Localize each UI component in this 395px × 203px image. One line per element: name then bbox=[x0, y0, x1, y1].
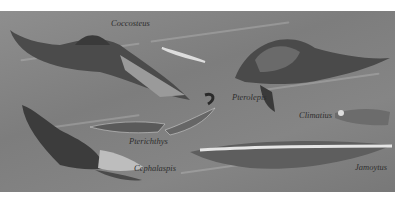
fish-drawings bbox=[0, 11, 395, 192]
label-pterolepis: Pterolepis bbox=[232, 92, 267, 102]
coccosteus-fish bbox=[10, 30, 190, 100]
label-jamoytus: Jamoytus bbox=[355, 162, 387, 172]
small-fish bbox=[162, 48, 205, 62]
climatius-fish bbox=[335, 109, 390, 125]
label-cephalaspis: Cephalaspis bbox=[134, 163, 176, 173]
cephalaspis-fish bbox=[22, 105, 145, 181]
label-coccosteus: Coccosteus bbox=[111, 18, 150, 28]
fish-illustration: Coccosteus Pterolepis Climatius Ptericht… bbox=[0, 11, 395, 192]
pterichthys-fish bbox=[90, 94, 215, 135]
label-pterichthys: Pterichthys bbox=[129, 136, 168, 146]
label-climatius: Climatius bbox=[299, 110, 332, 120]
